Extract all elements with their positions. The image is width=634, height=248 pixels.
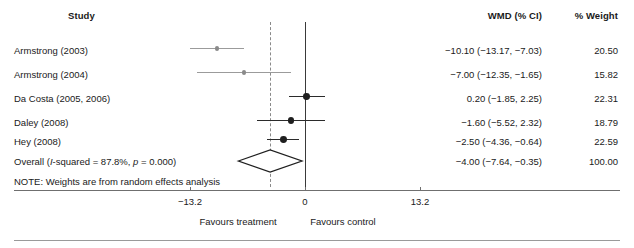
x-axis-tick [190,187,191,191]
x-axis-tick-label: 0 [275,196,335,207]
study-label: Hey (2008) [14,136,61,147]
forest-plot: Study WMD (% CI) % Weight Armstrong (200… [0,0,634,248]
study-label: Armstrong (2003) [14,45,88,56]
effect-value: 0.20 (−1.85, 2.25) [392,93,542,104]
column-header-weight: % Weight [556,10,618,21]
summary-diamond [0,148,634,176]
effect-marker [288,117,294,123]
weight-value: 22.31 [556,93,618,104]
column-header-effect: WMD (% CI) [392,10,542,21]
weight-value: 15.82 [556,69,618,80]
x-axis-tick-label: −13.2 [160,196,220,207]
study-label: Armstrong (2004) [14,69,88,80]
effect-marker [303,93,310,100]
x-axis-tick [305,187,306,191]
effect-value: −2.50 (−4.36, −0.64) [392,136,542,147]
x-axis-line [14,190,620,191]
effect-marker [215,46,219,50]
weight-value: 18.79 [556,117,618,128]
study-label: Daley (2008) [14,117,68,128]
study-label: Da Costa (2005, 2006) [14,93,110,104]
effect-value: −1.60 (−5.52, 2.32) [392,117,542,128]
weight-value: 20.50 [556,45,618,56]
effect-marker [280,136,287,143]
effect-marker [242,70,246,74]
note-text: NOTE: Weights are from random effects an… [14,176,220,187]
effect-value: −7.00 (−12.35, −1.65) [392,69,542,80]
bottom-divider [14,240,620,241]
x-axis-tick-label: 13.2 [390,196,450,207]
favours-control-label: Favours control [310,216,375,227]
x-axis-tick [420,187,421,191]
column-header-study: Study [68,10,95,21]
favours-treatment-label: Favours treatment [200,216,277,227]
effect-value: −10.10 (−13.17, −7.03) [392,45,542,56]
weight-value: 22.59 [556,136,618,147]
